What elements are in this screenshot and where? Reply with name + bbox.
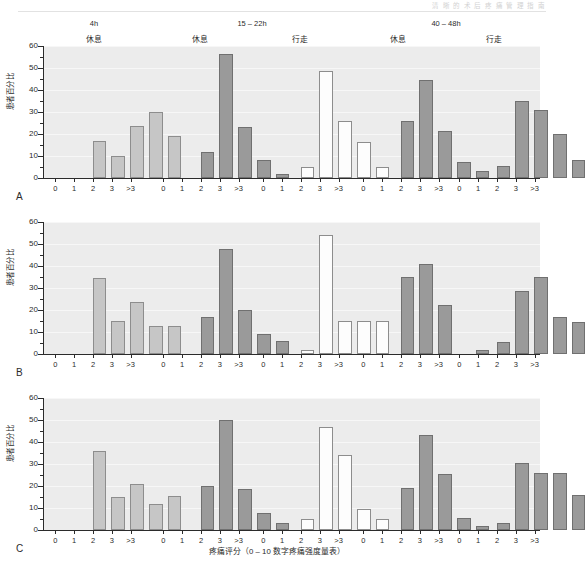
- x-tick-label: >3: [123, 360, 139, 369]
- x-tick-label: >3: [527, 536, 543, 545]
- plot-area: [44, 222, 540, 354]
- x-tick: [55, 178, 56, 182]
- header-time-2: 40 – 48h: [352, 19, 540, 28]
- x-tick: [301, 178, 302, 182]
- y-tick-minor-25: [40, 475, 43, 476]
- bar: [130, 302, 144, 354]
- bar: [497, 342, 511, 354]
- gridline-40: [44, 442, 540, 443]
- bar: [301, 167, 315, 178]
- x-tick-label: >3: [431, 536, 447, 545]
- x-tick: [497, 530, 498, 534]
- chart-group-headers: 4h15 – 22h40 – 48h休息休息行走休息行走: [0, 0, 554, 30]
- x-tick-label: 2: [85, 360, 101, 369]
- y-tick-label-0: 0: [4, 174, 38, 182]
- y-axis-title: 患者百分比: [4, 233, 15, 303]
- y-tick-60: [38, 398, 43, 399]
- x-tick: [420, 530, 421, 534]
- x-tick-label: 2: [393, 184, 409, 193]
- y-tick-label-20: 20: [4, 482, 38, 490]
- x-tick: [74, 178, 75, 182]
- x-tick: [201, 354, 202, 358]
- y-tick-label-10: 10: [4, 328, 38, 336]
- y-tick-label-0: 0: [4, 526, 38, 534]
- x-tick-label: >3: [331, 536, 347, 545]
- x-tick: [163, 354, 164, 358]
- x-tick: [93, 178, 94, 182]
- y-axis-title: 患者百分比: [4, 57, 15, 127]
- y-tick-minor-55: [40, 57, 43, 58]
- x-tick-label: 1: [174, 360, 190, 369]
- bar: [149, 326, 163, 354]
- y-tick-label-10: 10: [4, 152, 38, 160]
- x-tick: [301, 530, 302, 534]
- x-axis-title: 疼痛评分（0 – 10 数字疼痛强度量表）: [0, 545, 554, 556]
- x-tick-label: >3: [527, 184, 543, 193]
- x-tick-label: 3: [104, 184, 120, 193]
- x-tick-label: 2: [193, 184, 209, 193]
- x-tick-label: 0: [255, 184, 271, 193]
- x-tick: [382, 354, 383, 358]
- bar: [401, 277, 415, 354]
- x-tick-label: >3: [231, 536, 247, 545]
- x-tick: [497, 354, 498, 358]
- y-tick-0: [38, 178, 43, 179]
- x-tick-label: 3: [508, 360, 524, 369]
- x-axis-line: [43, 178, 540, 179]
- y-tick-minor-35: [40, 453, 43, 454]
- bar: [401, 121, 415, 178]
- bar: [497, 523, 511, 530]
- bar: [319, 427, 333, 530]
- y-tick-30: [38, 112, 43, 113]
- x-tick-label: 1: [274, 360, 290, 369]
- x-tick: [282, 530, 283, 534]
- y-tick-40: [38, 266, 43, 267]
- x-tick: [112, 354, 113, 358]
- bar: [149, 504, 163, 530]
- y-tick-30: [38, 464, 43, 465]
- x-tick: [401, 530, 402, 534]
- x-axis-line: [43, 530, 540, 531]
- y-tick-0: [38, 354, 43, 355]
- bar: [438, 131, 452, 178]
- x-tick-label: 0: [47, 360, 63, 369]
- x-tick-label: >3: [123, 184, 139, 193]
- bar: [338, 121, 352, 178]
- bar: [376, 167, 390, 178]
- x-tick-label: 0: [355, 184, 371, 193]
- x-tick: [282, 354, 283, 358]
- bar: [553, 134, 567, 178]
- x-tick: [382, 530, 383, 534]
- x-tick: [339, 178, 340, 182]
- bar: [572, 322, 585, 354]
- panel-letter: B: [16, 367, 23, 378]
- x-tick: [459, 354, 460, 358]
- x-tick: [112, 178, 113, 182]
- y-tick-minor-45: [40, 255, 43, 256]
- bar: [201, 486, 215, 530]
- x-tick: [516, 178, 517, 182]
- bar: [476, 171, 490, 178]
- x-tick: [131, 530, 132, 534]
- x-tick-label: 1: [274, 536, 290, 545]
- x-tick-label: 0: [255, 360, 271, 369]
- bar: [438, 474, 452, 530]
- x-tick-label: 0: [47, 184, 63, 193]
- gridline-20: [44, 134, 540, 135]
- x-tick-label: 1: [66, 360, 82, 369]
- bar: [338, 321, 352, 354]
- bar: [357, 321, 371, 354]
- y-tick-minor-5: [40, 343, 43, 344]
- y-tick-label-60: 60: [4, 218, 38, 226]
- x-tick-label: 0: [47, 536, 63, 545]
- plot-area: [44, 46, 540, 178]
- x-tick: [535, 354, 536, 358]
- y-tick-minor-5: [40, 519, 43, 520]
- x-tick: [363, 178, 364, 182]
- x-tick: [182, 178, 183, 182]
- header-time-1: 15 – 22h: [152, 19, 352, 28]
- bar: [219, 420, 233, 530]
- bar: [301, 519, 315, 530]
- x-tick-label: 0: [155, 184, 171, 193]
- gridline-40: [44, 266, 540, 267]
